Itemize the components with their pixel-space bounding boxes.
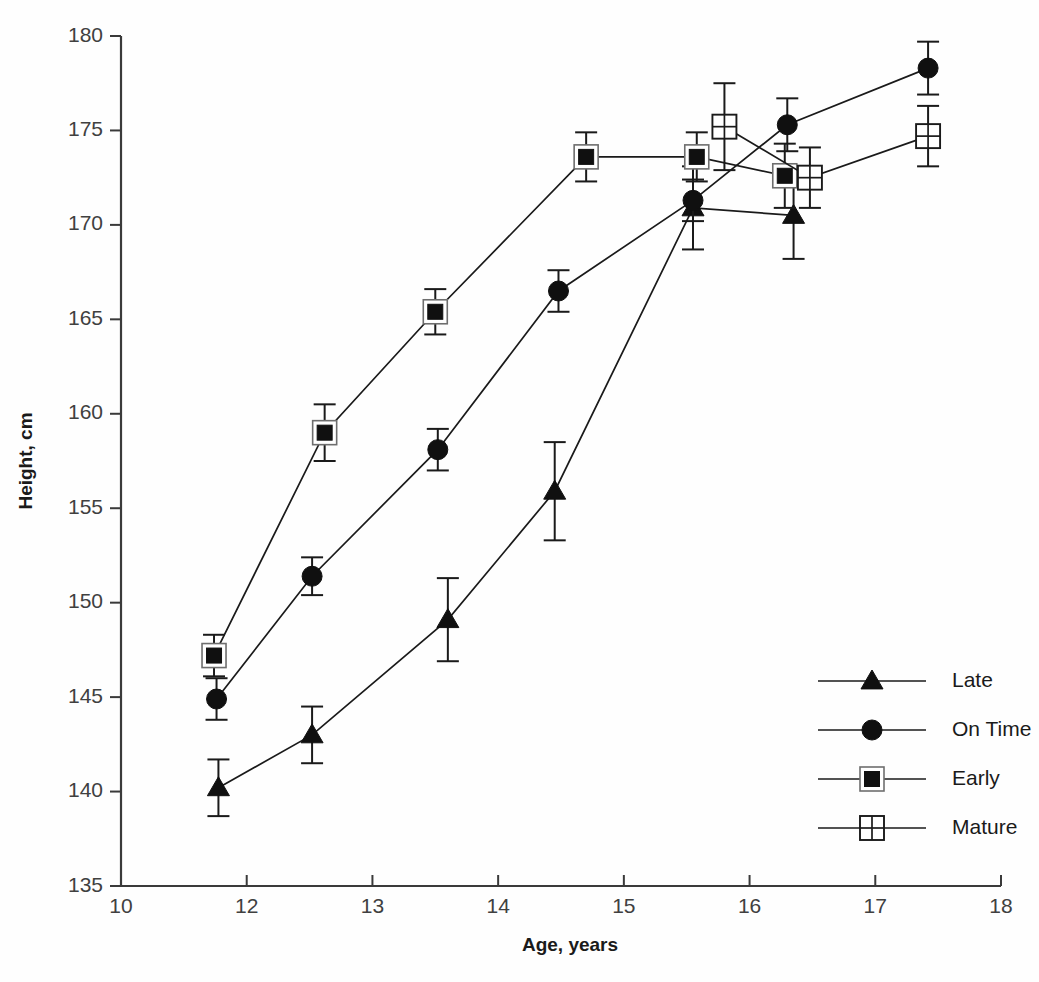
y-tick-label: 175	[68, 117, 103, 140]
y-axis-title: Height, cm	[15, 412, 36, 509]
y-tick-group: 135140145150155160165170175180	[68, 23, 121, 896]
x-tick-label: 13	[361, 894, 384, 917]
x-tick-label: 12	[235, 894, 258, 917]
data-point-marker	[423, 300, 447, 324]
series-mature	[712, 83, 940, 208]
legend-item-mature[interactable]: Mature	[818, 815, 1017, 840]
series-line	[214, 157, 785, 656]
data-point-marker	[301, 724, 323, 743]
y-tick-label: 170	[68, 211, 103, 234]
data-point-marker	[207, 689, 227, 709]
y-tick-label: 135	[68, 873, 103, 896]
series-line	[218, 208, 793, 788]
legend-item-label: On Time	[952, 717, 1031, 740]
series-on-time	[206, 42, 940, 720]
data-point-marker	[428, 440, 448, 460]
y-tick-label: 140	[68, 778, 103, 801]
data-point-marker	[302, 566, 322, 586]
x-tick-label: 14	[486, 894, 510, 917]
data-point-marker	[207, 777, 229, 796]
data-point-marker	[313, 421, 337, 445]
y-tick-label: 165	[68, 306, 103, 329]
data-point-marker	[683, 190, 703, 210]
series-line	[217, 68, 929, 699]
legend-item-early[interactable]: Early	[818, 766, 1000, 791]
legend-item-on-time[interactable]: On Time	[818, 717, 1031, 740]
data-point-marker	[798, 166, 822, 190]
height-by-age-line-chart: 135140145150155160165170175180 Height, c…	[0, 0, 1039, 982]
series-early	[202, 132, 797, 676]
data-point-marker	[918, 58, 938, 78]
x-tick-group: 1012131415161718	[109, 875, 1012, 917]
y-tick-label: 180	[68, 23, 103, 46]
legend-item-label: Mature	[952, 815, 1017, 838]
data-point-marker	[685, 145, 709, 169]
legend-item-late[interactable]: Late	[818, 668, 993, 691]
x-tick-label: 10	[109, 894, 132, 917]
legend-marker-icon	[861, 670, 883, 689]
y-tick-label: 150	[68, 589, 103, 612]
data-point-marker	[202, 644, 226, 668]
series-late	[207, 166, 804, 816]
legend-marker-icon	[860, 767, 884, 791]
data-point-marker	[712, 115, 736, 139]
x-axis-title: Age, years	[522, 934, 618, 955]
x-tick-label: 18	[989, 894, 1012, 917]
data-point-marker	[544, 480, 566, 499]
legend-item-label: Late	[952, 668, 993, 691]
legend-marker-icon	[860, 816, 884, 840]
legend-marker-icon	[862, 720, 882, 740]
x-axis: 1012131415161718 Age, years	[109, 875, 1012, 955]
series-layer	[202, 42, 940, 816]
x-tick-label: 17	[864, 894, 887, 917]
data-point-marker	[916, 124, 940, 148]
y-tick-label: 155	[68, 495, 103, 518]
data-point-marker	[574, 145, 598, 169]
figure-container: 135140145150155160165170175180 Height, c…	[0, 0, 1039, 982]
y-tick-label: 145	[68, 684, 103, 707]
y-tick-label: 160	[68, 400, 103, 423]
chart-legend: LateOn TimeEarlyMature	[818, 668, 1031, 840]
x-tick-label: 15	[612, 894, 635, 917]
data-point-marker	[548, 281, 568, 301]
x-tick-label: 16	[738, 894, 761, 917]
legend-item-label: Early	[952, 766, 1000, 789]
y-axis: 135140145150155160165170175180 Height, c…	[15, 23, 121, 896]
data-point-marker	[777, 115, 797, 135]
